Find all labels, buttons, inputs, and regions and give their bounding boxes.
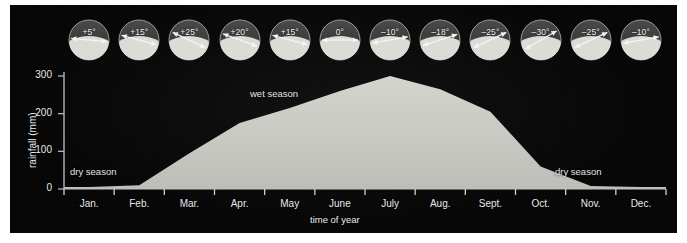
dry-season-label-left: dry season bbox=[70, 166, 116, 177]
sun-angle-label: +15° bbox=[118, 27, 160, 37]
dial-graphic bbox=[520, 19, 562, 61]
sun-angle-label: –18° bbox=[419, 27, 461, 37]
dial-graphic bbox=[620, 19, 662, 61]
x-tick-label: June bbox=[315, 198, 365, 209]
sun-angle-dial: –10° bbox=[369, 19, 411, 61]
x-tick-label: July bbox=[365, 198, 415, 209]
dial-graphic bbox=[319, 19, 361, 61]
y-tick-label: 100 bbox=[22, 144, 52, 155]
sun-angle-dial: –30° bbox=[520, 19, 562, 61]
dial-graphic bbox=[118, 19, 160, 61]
sun-angle-dial: –18° bbox=[419, 19, 461, 61]
wet-season-label: wet season bbox=[250, 88, 298, 99]
dial-graphic bbox=[68, 19, 110, 61]
x-tick-label: Dec. bbox=[616, 198, 666, 209]
dry-season-label-right: dry season bbox=[555, 166, 601, 177]
x-tick-label: Mar. bbox=[164, 198, 214, 209]
dial-graphic bbox=[369, 19, 411, 61]
sun-angle-dial: –10° bbox=[620, 19, 662, 61]
sun-angle-label: –10° bbox=[620, 27, 662, 37]
dial-graphic bbox=[570, 19, 612, 61]
sun-angle-label: +5° bbox=[68, 27, 110, 37]
sun-angle-label: –30° bbox=[520, 27, 562, 37]
sun-angle-label: +25° bbox=[168, 27, 210, 37]
y-axis-title: rainfall (mm) bbox=[27, 112, 38, 168]
x-axis-title: time of year bbox=[310, 214, 360, 225]
x-tick-label: May bbox=[265, 198, 315, 209]
dial-graphic bbox=[269, 19, 311, 61]
sun-angle-label: +20° bbox=[219, 27, 261, 37]
x-tick-label: Apr. bbox=[215, 198, 265, 209]
dial-graphic bbox=[419, 19, 461, 61]
sun-angle-dial: +20° bbox=[219, 19, 261, 61]
dial-graphic bbox=[168, 19, 210, 61]
sun-angle-dial: 0° bbox=[319, 19, 361, 61]
sun-angle-dial: +25° bbox=[168, 19, 210, 61]
y-tick-label: 0 bbox=[22, 182, 52, 193]
sun-angle-dial: +15° bbox=[118, 19, 160, 61]
sun-angle-dial: +15° bbox=[269, 19, 311, 61]
figure-root: +5°+15°+25°+20°+15°0°–10°–18°–25°–30°–25… bbox=[0, 0, 687, 243]
x-tick-label: Feb. bbox=[114, 198, 164, 209]
x-tick-label: Oct. bbox=[516, 198, 566, 209]
sun-angle-label: +15° bbox=[269, 27, 311, 37]
dial-graphic bbox=[219, 19, 261, 61]
sun-angle-dial: +5° bbox=[68, 19, 110, 61]
y-tick-label: 300 bbox=[22, 69, 52, 80]
dial-graphic bbox=[469, 19, 511, 61]
x-tick-label: Sept. bbox=[465, 198, 515, 209]
sun-angle-label: –10° bbox=[369, 27, 411, 37]
sun-angle-label: –25° bbox=[469, 27, 511, 37]
x-tick-label: Jan. bbox=[64, 198, 114, 209]
sun-angle-label: –25° bbox=[570, 27, 612, 37]
sun-angle-dial: –25° bbox=[570, 19, 612, 61]
sun-angle-dial: –25° bbox=[469, 19, 511, 61]
x-tick-label: Aug. bbox=[415, 198, 465, 209]
y-tick-label: 200 bbox=[22, 107, 52, 118]
sun-angle-label: 0° bbox=[319, 27, 361, 37]
x-tick-label: Nov. bbox=[566, 198, 616, 209]
